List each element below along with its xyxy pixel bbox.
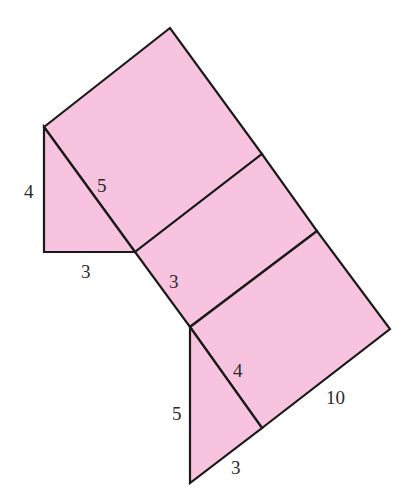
label-bottom-triangle-base: 3	[231, 457, 241, 478]
label-left-base: 3	[81, 261, 91, 282]
label-prism-length: 10	[326, 387, 345, 408]
label-left-height: 4	[24, 181, 34, 202]
label-bottom-triangle-side: 4	[233, 360, 243, 381]
label-bottom-triangle-height: 5	[172, 403, 182, 424]
prism-net-diagram: 4 5 3 3 4 5 3 10	[0, 0, 409, 497]
label-left-hypotenuse: 5	[97, 175, 107, 196]
label-middle-side: 3	[169, 271, 179, 292]
